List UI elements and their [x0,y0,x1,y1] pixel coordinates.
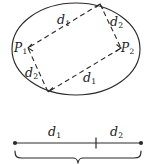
total-length-brace [15,151,141,163]
side-label-top-d1: d1 [57,14,70,27]
segment-label-d2: d2 [110,126,123,139]
dashed-parallelogram [28,4,121,92]
segment-label-d1: d1 [48,126,61,139]
side-label-right-d2: d2 [110,16,123,29]
segment-left-endpoint-dot [13,141,17,145]
side-label-left-d2: d2 [25,67,38,80]
figure-canvas [0,0,155,164]
point-label-p2: P2 [121,42,134,54]
vertex-marks [28,4,121,92]
point-label-p1: P1 [14,42,27,54]
segment-right-endpoint-dot [139,141,143,145]
side-label-bottom-d1: d1 [83,72,96,85]
math-figure: d1 d2 d2 d1 P1 P2 d1 d2 [0,0,155,164]
